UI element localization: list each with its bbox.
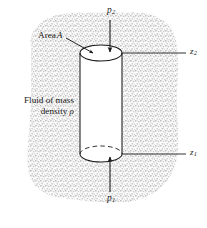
fluid-label-line2-prefix: density: [41, 106, 68, 116]
z1-base: z: [190, 147, 194, 157]
area-label-text: Area: [38, 30, 56, 40]
p1-base: p: [107, 193, 112, 203]
fluid-label-line1: Fluid of mass: [24, 95, 74, 105]
z2-subscript: 2: [194, 49, 197, 56]
z1-subscript: 1: [194, 150, 197, 157]
pressure-top-label: p2: [107, 5, 115, 16]
fluid-density-label: Fluid of mass density ρ: [8, 95, 74, 117]
area-label-symbol: A: [56, 30, 63, 40]
p2-subscript: 2: [112, 8, 116, 15]
height-top-label: z2: [190, 46, 197, 57]
z2-base: z: [190, 46, 194, 56]
height-bottom-label: z1: [190, 147, 197, 158]
hydrostatics-figure: AreaA Fluid of mass density ρ p2 p1 z2 z…: [0, 0, 207, 228]
area-label: AreaA: [38, 30, 62, 41]
fluid-element-cylinder: [80, 45, 122, 162]
fluid-label-rho-symbol: ρ: [70, 106, 74, 116]
p1-subscript: 1: [112, 196, 116, 203]
pressure-bottom-label: p1: [107, 193, 115, 204]
p2-base: p: [107, 5, 112, 15]
